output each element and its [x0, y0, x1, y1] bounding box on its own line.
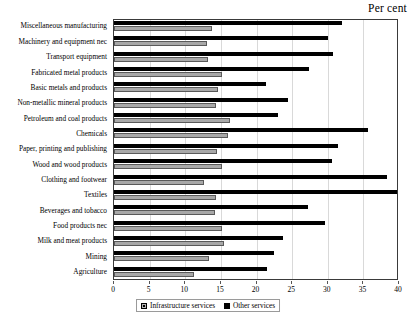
bar-infrastructure-services [114, 164, 222, 169]
bar-rows [114, 20, 397, 279]
bar-infrastructure-services [114, 180, 204, 185]
x-tick-mark [113, 281, 114, 284]
legend-swatch-icon-other [224, 303, 230, 309]
bar-infrastructure-services [114, 272, 194, 277]
category-label: Fabricated metal products [31, 69, 107, 77]
bar-other-services [114, 52, 333, 56]
bar-other-services [114, 190, 398, 194]
category-label: Agriculture [73, 268, 107, 276]
bar-other-services [114, 221, 325, 225]
chart-legend: Infrastructure services Other services [136, 299, 280, 312]
category-axis-labels: Miscellaneous manufacturingMachinery and… [0, 19, 110, 280]
bar-other-services [114, 159, 332, 163]
bar-infrastructure-services [114, 241, 224, 246]
bar-infrastructure-services [114, 149, 217, 154]
x-tick-label: 10 [181, 285, 189, 294]
bar-other-services [114, 205, 308, 209]
x-tick-mark [220, 281, 221, 284]
bar-row [114, 174, 397, 189]
bar-other-services [114, 175, 387, 179]
bar-row [114, 143, 397, 158]
plot-area [113, 19, 398, 280]
category-label: Petroleum and coal products [24, 115, 107, 123]
x-tick-mark [291, 281, 292, 284]
bar-other-services [114, 128, 368, 132]
x-tick-label: 15 [216, 285, 224, 294]
bar-other-services [114, 236, 283, 240]
x-tick-label: 25 [287, 285, 295, 294]
bar-infrastructure-services [114, 226, 222, 231]
bar-infrastructure-services [114, 103, 216, 108]
category-label: Textiles [84, 191, 107, 199]
x-tick-mark [362, 281, 363, 284]
category-label: Transport equipment [46, 53, 107, 61]
category-label: Mining [86, 253, 108, 261]
bar-infrastructure-services [114, 87, 218, 92]
category-label: Non-metallic mineral products [17, 99, 107, 107]
x-tick-label: 35 [359, 285, 367, 294]
bar-infrastructure-services [114, 210, 215, 215]
category-label: Paper, printing and publishing [19, 145, 107, 153]
x-axis: 0510152025303540 [113, 281, 398, 295]
bar-other-services [114, 67, 309, 71]
bar-infrastructure-services [114, 256, 209, 261]
legend-item-infrastructure-services: Infrastructure services [141, 301, 215, 310]
category-label: Machinery and equipment nec [18, 38, 107, 46]
bar-other-services [114, 267, 267, 271]
legend-item-other-services: Other services [224, 301, 275, 310]
bar-chart: Per cent Miscellaneous manufacturingMach… [0, 0, 416, 320]
bar-row [114, 97, 397, 112]
bar-row [114, 127, 397, 142]
category-label: Milk and meat products [37, 237, 107, 245]
x-tick-label: 40 [394, 285, 402, 294]
bar-infrastructure-services [114, 41, 207, 46]
bar-infrastructure-services [114, 195, 216, 200]
bar-other-services [114, 98, 288, 102]
bar-row [114, 204, 397, 219]
category-label: Basic metals and products [31, 84, 107, 92]
legend-swatch-icon-infrastructure [141, 303, 147, 309]
bar-row [114, 235, 397, 250]
bar-infrastructure-services [114, 133, 228, 138]
x-tick-mark [256, 281, 257, 284]
bar-other-services [114, 113, 278, 117]
category-label: Miscellaneous manufacturing [20, 22, 107, 30]
bar-row [114, 266, 397, 280]
bar-row [114, 158, 397, 173]
bar-row [114, 189, 397, 204]
x-tick-label: 0 [111, 285, 115, 294]
bar-other-services [114, 251, 274, 255]
bar-other-services [114, 36, 328, 40]
category-label: Wood and wood products [32, 161, 107, 169]
bar-other-services [114, 21, 342, 25]
legend-label-infrastructure: Infrastructure services [150, 301, 215, 310]
bar-infrastructure-services [114, 26, 212, 31]
legend-label-other: Other services [233, 301, 275, 310]
category-label: Food products nec [53, 222, 107, 230]
bar-row [114, 35, 397, 50]
bar-row [114, 20, 397, 35]
x-tick-label: 20 [252, 285, 260, 294]
category-label: Clothing and footwear [41, 176, 107, 184]
x-tick-label: 30 [323, 285, 331, 294]
x-tick-mark [184, 281, 185, 284]
bar-other-services [114, 144, 338, 148]
category-label: Chemicals [76, 130, 107, 138]
bar-row [114, 250, 397, 265]
x-tick-label: 5 [147, 285, 151, 294]
x-tick-mark [398, 281, 399, 284]
bar-row [114, 66, 397, 81]
bar-infrastructure-services [114, 118, 230, 123]
unit-label: Per cent [368, 2, 407, 14]
bar-row [114, 220, 397, 235]
bar-infrastructure-services [114, 72, 222, 77]
x-tick-mark [149, 281, 150, 284]
bar-row [114, 112, 397, 127]
bar-row [114, 51, 397, 66]
bar-other-services [114, 82, 266, 86]
category-label: Beverages and tobacco [40, 207, 107, 215]
bar-infrastructure-services [114, 57, 208, 62]
x-tick-mark [327, 281, 328, 284]
bar-row [114, 81, 397, 96]
